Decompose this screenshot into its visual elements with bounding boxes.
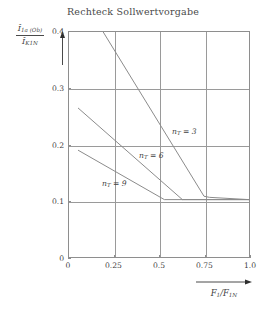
- curve-label-nt-3: nT = 3: [172, 127, 197, 136]
- curve-label-nt-6-subscript: T: [144, 154, 148, 160]
- y-tickmark-0.1: [68, 201, 71, 202]
- x-axis-arrow-icon: [196, 278, 252, 286]
- y-tickmark-0.2: [68, 145, 71, 146]
- y-tick-label-0.1: 0.1: [38, 197, 64, 206]
- y-axis-denominator-subscript: K1N: [25, 40, 38, 46]
- chart-root: Rechteck Sollwertvorgabe Î1a (Ob) ÎK1N n…: [0, 0, 266, 314]
- x-tick-label-0.5: 0.5: [144, 261, 174, 270]
- curve-label-nt-3-subscript: T: [177, 130, 181, 136]
- y-axis-arrow-icon: [58, 31, 67, 65]
- x-tick-label-0.75: 0.75: [190, 261, 220, 270]
- x-tickmark-0.75: [205, 255, 206, 258]
- curve-nt-3: [103, 32, 249, 200]
- x-tickmark-1.0: [250, 255, 251, 258]
- plot-area: nT = 3 nT = 6 nT = 9: [68, 31, 250, 258]
- curve-label-nt-9-value: = 9: [113, 179, 127, 188]
- y-axis-denominator: ÎK1N: [16, 36, 44, 47]
- x-tickmark-0: [68, 255, 69, 258]
- x-axis-denominator-subscript: 1N: [229, 292, 237, 298]
- curve-label-nt-3-value: = 3: [183, 127, 197, 136]
- y-tick-label-0.3: 0.3: [38, 84, 64, 93]
- chart-title: Rechteck Sollwertvorgabe: [0, 6, 266, 17]
- curve-label-nt-6: nT = 6: [139, 151, 164, 160]
- x-tick-label-0.25: 0.25: [99, 261, 129, 270]
- x-tick-label-1.0: 1.0: [235, 261, 265, 270]
- curve-container: [69, 32, 249, 257]
- y-tick-label-0.2: 0.2: [38, 141, 64, 150]
- y-tickmark-0: [68, 258, 71, 259]
- x-tickmark-0.5: [159, 255, 160, 258]
- curve-label-nt-9-subscript: T: [107, 182, 111, 188]
- y-tick-label-0.4: 0.4: [38, 27, 64, 36]
- x-tick-label-0: 0: [53, 261, 83, 270]
- y-tickmark-0.4: [68, 31, 71, 32]
- y-tickmark-0.3: [68, 88, 71, 89]
- x-axis-label: F1/F1N: [188, 288, 260, 298]
- curve-label-nt-9: nT = 9: [102, 179, 127, 188]
- x-tickmark-0.25: [114, 255, 115, 258]
- curve-label-nt-6-value: = 6: [150, 151, 164, 160]
